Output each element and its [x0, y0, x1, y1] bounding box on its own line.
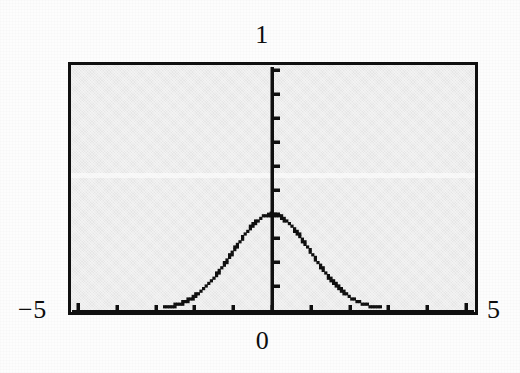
- y-axis-tick: [273, 285, 280, 289]
- y-axis-max-label-text: 1: [255, 20, 269, 49]
- x-axis-tick: [426, 305, 430, 311]
- x-axis-tick: [387, 305, 391, 311]
- y-axis-tick: [273, 93, 280, 97]
- plot-frame: [68, 62, 478, 315]
- x-axis-tick: [116, 305, 120, 311]
- x-axis-tick: [349, 305, 353, 311]
- x-axis-min-label: −5: [18, 297, 47, 323]
- x-axis-origin-label-text: 0: [256, 326, 270, 355]
- x-axis-tick: [465, 303, 469, 311]
- y-axis-max-label: 1: [0, 22, 520, 48]
- y-axis-tick: [273, 189, 280, 193]
- y-axis-tick: [273, 117, 280, 121]
- y-axis-tick: [273, 261, 280, 265]
- curve-pixel: [379, 305, 382, 308]
- y-axis-tick: [273, 237, 280, 241]
- plot-svg: [71, 65, 475, 312]
- y-axis-tick: [273, 69, 280, 73]
- x-axis-tick: [232, 305, 236, 311]
- y-axis-tick: [273, 165, 280, 169]
- x-axis-tick: [310, 305, 314, 311]
- y-axis-tick: [273, 141, 280, 145]
- x-axis-max-label: 5: [487, 297, 501, 323]
- x-axis-max-label-text: 5: [487, 295, 501, 324]
- x-axis-min-label-text: −5: [18, 295, 47, 324]
- x-axis-tick: [155, 305, 159, 311]
- figure-canvas: 1 −5 5 0: [0, 0, 520, 373]
- y-axis-group: [271, 67, 281, 311]
- x-axis-origin-label: 0: [0, 328, 520, 354]
- x-axis-tick: [77, 303, 81, 311]
- curve-peak: [267, 213, 277, 216]
- x-axis-tick: [193, 305, 197, 311]
